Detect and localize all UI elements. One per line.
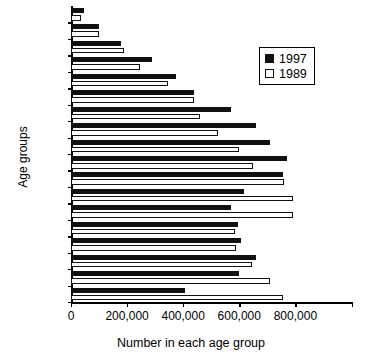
bar-group bbox=[71, 138, 352, 154]
bar-1997 bbox=[71, 255, 256, 260]
bar-group bbox=[71, 170, 352, 186]
bar-1989 bbox=[71, 229, 235, 235]
bar-1989 bbox=[71, 163, 253, 169]
bar-1997 bbox=[71, 24, 99, 29]
legend-label-1997: 1997 bbox=[279, 52, 307, 66]
population-bar-chart: Age groups 0-410-1420-2430-3440-4450-546… bbox=[0, 0, 382, 361]
bar-1997 bbox=[71, 8, 84, 13]
bar-1989 bbox=[71, 97, 194, 103]
bar-1989 bbox=[71, 81, 168, 87]
y-tick bbox=[68, 55, 72, 56]
bar-1989 bbox=[71, 196, 293, 202]
y-tick bbox=[68, 269, 72, 270]
bar-1989 bbox=[71, 295, 283, 301]
bar-group bbox=[71, 6, 352, 22]
y-axis-title: Age groups bbox=[16, 87, 30, 227]
bar-group bbox=[71, 88, 352, 104]
bar-1997 bbox=[71, 107, 231, 112]
bar-1997 bbox=[71, 288, 185, 293]
bar-group bbox=[71, 105, 352, 121]
y-tick bbox=[68, 170, 72, 171]
x-tick-label: 600,000 bbox=[209, 309, 269, 323]
x-tick bbox=[352, 302, 353, 307]
bar-1989 bbox=[71, 262, 252, 268]
x-tick bbox=[71, 302, 72, 307]
x-tick bbox=[295, 302, 296, 307]
y-tick bbox=[68, 22, 72, 23]
y-tick bbox=[68, 253, 72, 254]
y-tick bbox=[68, 236, 72, 237]
bar-group bbox=[71, 286, 352, 302]
y-tick bbox=[68, 105, 72, 106]
bar-1997 bbox=[71, 156, 287, 161]
bar-1997 bbox=[71, 41, 121, 46]
bar-1997 bbox=[71, 74, 176, 79]
bar-group bbox=[71, 203, 352, 219]
bar-1997 bbox=[71, 271, 239, 276]
bar-1989 bbox=[71, 15, 81, 21]
bar-1989 bbox=[71, 130, 218, 136]
y-tick bbox=[68, 138, 72, 139]
bar-1997 bbox=[71, 57, 152, 62]
bar-group bbox=[71, 269, 352, 285]
legend-item-1997: 1997 bbox=[265, 51, 307, 66]
x-tick-label: 0 bbox=[41, 309, 101, 323]
bar-1989 bbox=[71, 212, 293, 218]
bar-group bbox=[71, 154, 352, 170]
y-tick bbox=[68, 154, 72, 155]
bar-1989 bbox=[71, 114, 200, 120]
bar-group bbox=[71, 187, 352, 203]
bar-group bbox=[71, 236, 352, 252]
bar-1997 bbox=[71, 189, 244, 194]
y-tick bbox=[68, 220, 72, 221]
y-tick bbox=[68, 39, 72, 40]
bar-group bbox=[71, 253, 352, 269]
y-tick bbox=[68, 72, 72, 73]
x-tick-label: 200,000 bbox=[97, 309, 157, 323]
x-tick-label: 400,000 bbox=[153, 309, 213, 323]
bar-1997 bbox=[71, 90, 194, 95]
open-square-icon bbox=[265, 69, 274, 78]
y-tick bbox=[68, 286, 72, 287]
bar-group bbox=[71, 22, 352, 38]
legend-label-1989: 1989 bbox=[279, 67, 307, 81]
x-axis-title: Number in each age group bbox=[0, 336, 382, 350]
x-tick-label: 800,000 bbox=[265, 309, 325, 323]
bar-1997 bbox=[71, 172, 283, 177]
bar-1997 bbox=[71, 140, 270, 145]
bar-1989 bbox=[71, 64, 140, 70]
bar-1997 bbox=[71, 123, 256, 128]
chart-legend: 1997 1989 bbox=[259, 47, 315, 85]
x-tick bbox=[183, 302, 184, 307]
bar-1989 bbox=[71, 147, 239, 153]
filled-square-icon bbox=[265, 54, 274, 63]
y-tick bbox=[68, 187, 72, 188]
bar-1989 bbox=[71, 179, 284, 185]
legend-item-1989: 1989 bbox=[265, 66, 307, 81]
y-tick bbox=[68, 88, 72, 89]
y-tick bbox=[68, 121, 72, 122]
bar-1997 bbox=[71, 222, 238, 227]
bar-1989 bbox=[71, 278, 270, 284]
bar-1997 bbox=[71, 205, 231, 210]
bar-1997 bbox=[71, 238, 241, 243]
x-axis-line bbox=[71, 302, 353, 304]
bar-1989 bbox=[71, 48, 124, 54]
bar-group bbox=[71, 220, 352, 236]
y-tick bbox=[68, 203, 72, 204]
x-tick bbox=[127, 302, 128, 307]
bar-group bbox=[71, 121, 352, 137]
bar-1989 bbox=[71, 31, 99, 37]
x-tick bbox=[239, 302, 240, 307]
bar-1989 bbox=[71, 245, 236, 251]
